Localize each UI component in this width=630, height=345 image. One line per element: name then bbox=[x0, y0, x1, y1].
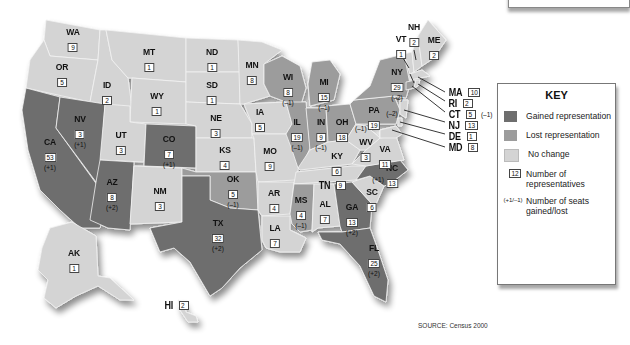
key-item-lost: Lost representation bbox=[504, 130, 600, 141]
label-NY: NY29(–2) bbox=[391, 67, 404, 101]
label-UT: UT3 bbox=[115, 130, 127, 156]
label-VT: VT1 bbox=[395, 34, 407, 60]
label-AZ: AZ8(+2) bbox=[106, 177, 118, 211]
label-PA: PA19 bbox=[368, 105, 380, 131]
label-RI: RI2 bbox=[448, 98, 473, 109]
label-WV: WV3 bbox=[359, 137, 374, 163]
label-HI: HI2 bbox=[164, 300, 189, 311]
label-WA: WA9 bbox=[66, 27, 81, 53]
label-OR: OR5 bbox=[55, 62, 69, 88]
label-MS: MS4(–1) bbox=[294, 195, 308, 229]
label-OK: OK5(–1) bbox=[226, 174, 240, 208]
key-item-nochange: No change bbox=[504, 149, 570, 162]
label-VA: VA11 bbox=[379, 144, 391, 170]
label-TX: TX32(+2) bbox=[212, 218, 224, 252]
key-item-representatives: 12 Number of representatives bbox=[504, 169, 612, 189]
label-AL: AL7 bbox=[319, 199, 331, 225]
label-MI: MI15(–1) bbox=[318, 77, 330, 111]
label-SD: SD1 bbox=[206, 80, 219, 106]
label-MO: MO9 bbox=[263, 146, 278, 172]
change-NC: (+1) bbox=[372, 175, 384, 184]
key-item-gained: Gained representation bbox=[504, 111, 611, 122]
label-WY: WY1 bbox=[150, 91, 165, 117]
label-IN: IN9(–1) bbox=[315, 117, 327, 151]
swatch-gained-icon bbox=[504, 111, 517, 122]
label-NM: NM3 bbox=[153, 186, 167, 212]
label-AR: AR4 bbox=[267, 188, 280, 214]
label-KY: KY6 bbox=[331, 151, 344, 177]
label-LA: LA7 bbox=[269, 223, 281, 249]
key-label: Number of representatives bbox=[526, 169, 606, 189]
key-label: Lost representation bbox=[526, 130, 600, 140]
change-OH: (–1) bbox=[355, 124, 367, 133]
change-PA: (–2) bbox=[386, 109, 398, 118]
label-NE: NE3 bbox=[210, 113, 223, 139]
label-SC: SC6 bbox=[366, 187, 379, 213]
top-panel-fragment bbox=[508, 0, 630, 8]
label-FL: FL25(+2) bbox=[368, 243, 380, 277]
label-ME: ME2 bbox=[427, 35, 441, 61]
label-AK: AK1 bbox=[67, 248, 80, 274]
seat-change-symbol: (+1/–1) bbox=[500, 197, 526, 203]
state-AK[interactable] bbox=[38, 222, 134, 308]
label-WI: WI8(–1) bbox=[282, 72, 294, 106]
label-CT: CT5(–1) bbox=[448, 109, 493, 120]
label-NV: NV3(+1) bbox=[74, 114, 87, 148]
label-ID: ID2 bbox=[102, 80, 112, 106]
label-MN: MN8 bbox=[245, 60, 259, 86]
label-ND: ND1 bbox=[205, 47, 218, 73]
label-DE: DE1 bbox=[448, 131, 477, 142]
key-title: KEY bbox=[498, 89, 615, 101]
key-item-seats: (+1/–1) Number of seats gained/lost bbox=[500, 196, 612, 216]
key-label: Number of seats gained/lost bbox=[526, 196, 606, 216]
swatch-lost-icon bbox=[504, 130, 517, 141]
label-NH: NH2 bbox=[407, 22, 420, 48]
rep-count-symbol: 12 bbox=[504, 169, 526, 178]
state-NJ[interactable] bbox=[400, 100, 408, 118]
label-TN: TN9 bbox=[318, 180, 346, 191]
label-CO: CO7(+1) bbox=[162, 134, 176, 168]
key-label: No change bbox=[528, 149, 570, 159]
label-GA: GA13(+2) bbox=[345, 202, 359, 236]
swatch-nochange-icon bbox=[504, 149, 519, 162]
key-label: Gained representation bbox=[526, 111, 611, 121]
label-KS: KS4 bbox=[219, 145, 232, 171]
label-NJ: NJ13 bbox=[448, 120, 478, 131]
label-OH: OH18 bbox=[335, 117, 349, 143]
label-IA: IA5 bbox=[255, 107, 265, 133]
label-CA: CA53(+1) bbox=[43, 137, 56, 171]
label-MT: MT1 bbox=[142, 47, 155, 73]
source-note: SOURCE: Census 2000 bbox=[418, 322, 488, 329]
map-key: KEY Gained representation Lost represent… bbox=[497, 83, 616, 285]
label-IL: IL19(–1) bbox=[291, 117, 303, 151]
label-MA: MA10 bbox=[448, 87, 480, 98]
label-MD: MD8 bbox=[448, 142, 478, 153]
